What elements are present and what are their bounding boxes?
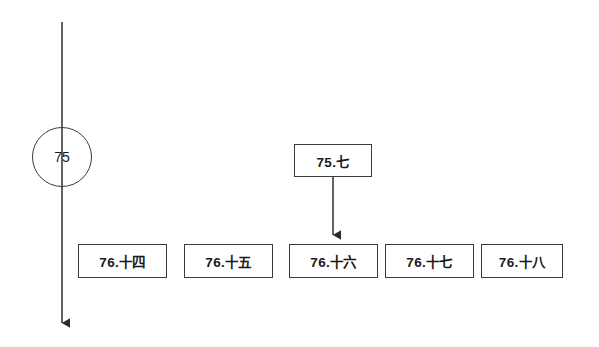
node-box-label: 76.十八 — [499, 251, 545, 271]
node-box-label: 76.十六 — [310, 251, 356, 271]
node-box-75-7[interactable]: 75.七 — [294, 144, 372, 177]
node-box-label: 76.十四 — [99, 251, 145, 271]
node-box-label: 76.十七 — [406, 251, 452, 271]
node-box-76-15[interactable]: 76.十五 — [184, 244, 273, 278]
node-box-76-17[interactable]: 76.十七 — [385, 244, 474, 278]
diagram-canvas: 75 75.七 76.十四 76.十五 76.十六 76.十七 76.十八 — [0, 0, 599, 347]
node-box-76-14[interactable]: 76.十四 — [78, 244, 167, 278]
circle-node-label: 75 — [54, 149, 70, 165]
node-box-76-16[interactable]: 76.十六 — [289, 244, 378, 278]
node-box-label: 76.十五 — [205, 251, 251, 271]
circle-node-75[interactable]: 75 — [32, 127, 92, 187]
node-box-76-18[interactable]: 76.十八 — [481, 244, 563, 278]
node-box-label: 75.七 — [317, 151, 350, 171]
